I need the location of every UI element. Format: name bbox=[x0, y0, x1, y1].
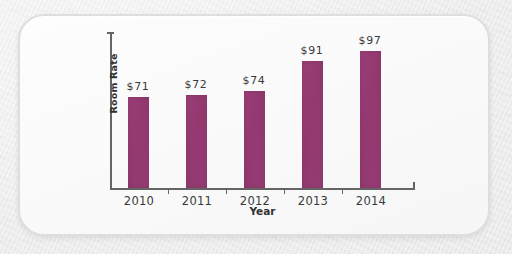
scanned-page: $71 $72 $74 $91 $97 2010 2011 2012 2013 … bbox=[0, 0, 512, 254]
figure-card bbox=[18, 14, 490, 236]
